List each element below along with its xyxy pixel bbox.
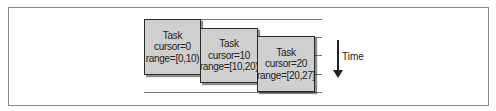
task-box-1: Task cursor=0 range=[0,10) [144, 19, 201, 75]
task-box-2: Task cursor=10 range=[10,20) [200, 28, 258, 83]
task-cursor: cursor=20 [265, 58, 307, 70]
timeline-line [314, 55, 322, 56]
time-label: Time [342, 51, 364, 62]
timeline-line [144, 92, 322, 93]
timeline-line [314, 74, 322, 75]
task-cursor: cursor=10 [208, 50, 250, 62]
task-range: range=[20,27] [257, 70, 315, 82]
time-arrow-icon [337, 40, 339, 71]
timeline-line [314, 37, 322, 38]
arrow-down-icon [333, 70, 343, 78]
task-title: Task [219, 38, 238, 50]
task-cursor: cursor=0 [154, 41, 191, 53]
task-box-3: Task cursor=20 range=[20,27] [257, 36, 315, 92]
task-range: range=[10,20) [200, 61, 259, 73]
task-title: Task [276, 47, 295, 59]
task-title: Task [163, 30, 182, 42]
task-range: range=[0,10) [146, 53, 199, 65]
timeline-line [200, 19, 322, 20]
